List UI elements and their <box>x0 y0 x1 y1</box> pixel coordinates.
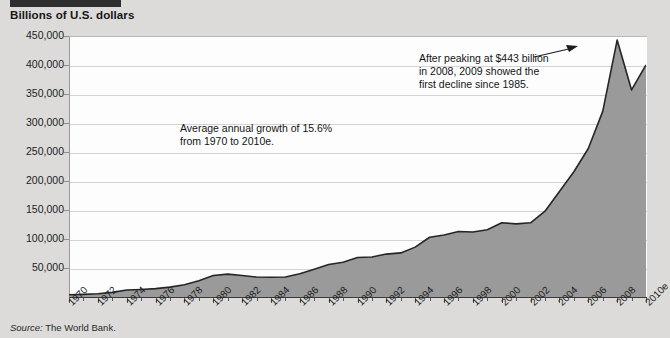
y-axis-labels: 50,000100,000150,000200,000250,000300,00… <box>0 0 64 338</box>
x-tick-mark <box>314 298 315 301</box>
y-tick-label: 450,000 <box>4 29 64 41</box>
source-label: Source: <box>10 322 43 333</box>
y-tick-label: 300,000 <box>4 116 64 128</box>
x-tick-mark <box>603 298 604 301</box>
y-tick-mark <box>64 65 69 66</box>
x-tick-mark <box>112 298 113 301</box>
x-tick-mark <box>401 298 402 301</box>
y-tick-mark <box>64 210 69 211</box>
x-tick-mark <box>343 298 344 301</box>
y-tick-label: 200,000 <box>4 174 64 186</box>
annotation-growth: Average annual growth of 15.6% from 1970… <box>180 122 332 148</box>
y-tick-label: 350,000 <box>4 87 64 99</box>
x-tick-mark <box>458 298 459 301</box>
y-tick-mark <box>64 123 69 124</box>
y-tick-label: 250,000 <box>4 145 64 157</box>
y-tick-mark <box>64 94 69 95</box>
x-tick-mark <box>487 298 488 301</box>
y-tick-label: 400,000 <box>4 58 64 70</box>
y-tick-label: 150,000 <box>4 203 64 215</box>
y-tick-label: 100,000 <box>4 232 64 244</box>
y-tick-mark <box>64 152 69 153</box>
x-tick-label: 2010e <box>643 280 670 307</box>
x-tick-mark <box>228 298 229 301</box>
area-fill <box>69 40 646 297</box>
x-tick-mark <box>199 298 200 301</box>
y-tick-mark <box>64 239 69 240</box>
y-tick-mark <box>64 181 69 182</box>
x-tick-mark <box>545 298 546 301</box>
x-tick-mark <box>141 298 142 301</box>
annotation-peak: After peaking at $443 billion in 2008, 2… <box>419 52 549 91</box>
y-tick-mark <box>64 268 69 269</box>
source-note: Source: The World Bank. <box>10 322 116 333</box>
area-series <box>69 36 646 297</box>
x-tick-mark <box>285 298 286 301</box>
x-tick-mark <box>83 298 84 301</box>
y-tick-label: 50,000 <box>4 261 64 273</box>
source-value: The World Bank. <box>43 322 116 333</box>
x-tick-mark <box>516 298 517 301</box>
y-tick-mark <box>64 36 69 37</box>
x-tick-mark <box>632 298 633 301</box>
x-tick-mark <box>574 298 575 301</box>
x-tick-mark <box>257 298 258 301</box>
x-tick-mark <box>430 298 431 301</box>
